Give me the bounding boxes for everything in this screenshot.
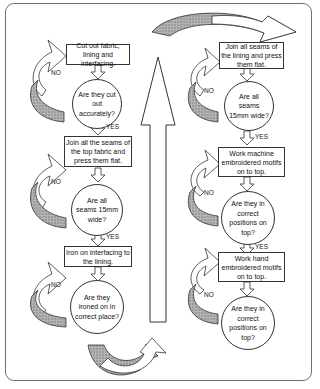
step-text: Join all the seams of the top fabric and…: [66, 138, 130, 165]
question-text: Are they in correct positions on top?: [226, 199, 270, 237]
step-box: Iron on interfacing to the lining.: [64, 246, 132, 267]
decision-circle: Are they cut out accurately?: [72, 79, 122, 129]
decision-circle: Are they in correct positions on top?: [221, 296, 275, 350]
decision-circle: Are all seams 15mm wide?: [224, 81, 274, 131]
yes-label: YES: [106, 233, 119, 240]
no-loop-arrow-icon: [30, 154, 66, 228]
question-text: Are they cut out accurately?: [77, 90, 117, 119]
no-label: NO: [204, 189, 214, 196]
step-box: Join all seams of the lining and press t…: [219, 42, 284, 69]
no-label: NO: [204, 291, 214, 298]
step-box: Work machine embroidered motifs on to to…: [218, 147, 285, 177]
yes-label: YES: [255, 133, 268, 140]
no-label: NO: [51, 281, 61, 288]
step-text: Work hand embroidered motifs on to top.: [220, 254, 283, 281]
decision-circle: Are they in correct positions on top?: [221, 191, 275, 245]
no-label: NO: [51, 178, 61, 185]
step-box: Join all the seams of the top fabric and…: [64, 136, 132, 167]
step-text: Cut out fabric, lining and interfacing.: [68, 41, 128, 68]
decision-circle: Are all seams 15mm wide?: [71, 184, 123, 236]
decision-circle: Are they ironed on in correct place?: [70, 280, 124, 334]
step-text: Iron on interfacing to the lining.: [66, 248, 130, 266]
step-box: Cut out fabric, lining and interfacing.: [66, 44, 130, 65]
step-text: Join all seams of the lining and press t…: [221, 42, 282, 69]
no-label: NO: [204, 87, 214, 94]
top-curved-arrow-icon: [152, 13, 296, 42]
yes-label: YES: [255, 243, 268, 250]
no-loop-arrow-icon: [30, 40, 66, 122]
question-text: Are all seams 15mm wide?: [229, 92, 269, 121]
step-box: Work hand embroidered motifs on to top.: [218, 252, 285, 282]
central-up-arrow-icon: [141, 57, 175, 322]
no-loop-arrow-icon: [188, 248, 220, 324]
yes-label: YES: [106, 123, 119, 130]
question-text: Are they in correct positions on top?: [226, 304, 270, 342]
question-text: Are all seams 15mm wide?: [76, 196, 118, 225]
no-loop-arrow-icon: [30, 262, 66, 327]
bottom-curved-arrow-icon: [88, 338, 166, 375]
no-label: NO: [51, 69, 61, 76]
step-text: Work machine embroidered motifs on to to…: [220, 149, 283, 176]
no-loop-arrow-icon: [188, 48, 220, 122]
question-text: Are they ironed on in correct place?: [75, 293, 119, 322]
no-loop-arrow-icon: [188, 150, 220, 226]
